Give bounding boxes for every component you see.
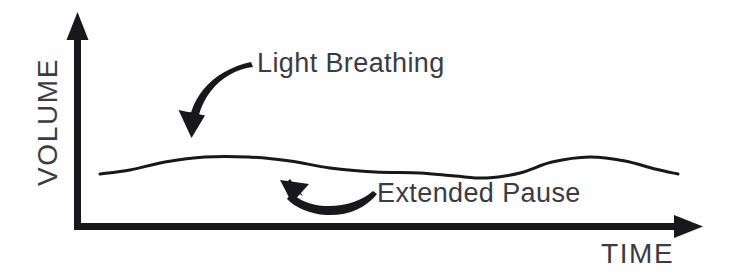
y-axis-arrowhead-icon [67, 12, 89, 40]
extended-pause-arrow-icon [280, 179, 377, 215]
light-breathing-arrow-icon [179, 62, 254, 138]
x-axis-arrowhead-icon [674, 215, 703, 238]
breathing-volume-diagram: VOLUME TIME Light Breathing Extended Pau… [0, 0, 730, 279]
annotation-label-light-breathing: Light Breathing [257, 48, 445, 79]
y-axis-label: VOLUME [32, 58, 64, 186]
breath-volume-curve [100, 156, 678, 178]
x-axis-label: TIME [601, 238, 674, 270]
annotation-label-extended-pause: Extended Pause [377, 178, 581, 209]
